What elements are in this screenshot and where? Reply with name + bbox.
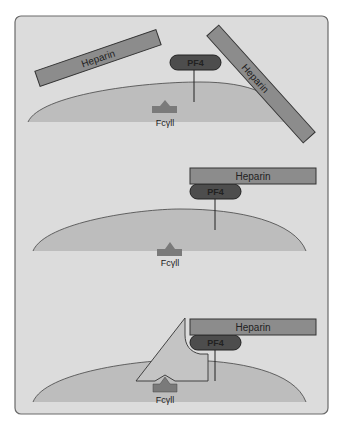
receptor-label: Fcγll (156, 118, 175, 128)
pf4-label: PF4 (207, 187, 224, 197)
heparin-label: Heparin (235, 171, 270, 182)
receptor-label: Fcγll (161, 258, 180, 268)
heparin-label: Heparin (235, 322, 270, 333)
receptor-label: Fcγll (156, 395, 175, 405)
pf4-label: PF4 (207, 338, 224, 348)
pf4-label: PF4 (187, 58, 204, 68)
heparin-pf4-diagram: Heparin PF4 Fcγll Heparin PF4 Heparin Fc… (0, 0, 344, 424)
